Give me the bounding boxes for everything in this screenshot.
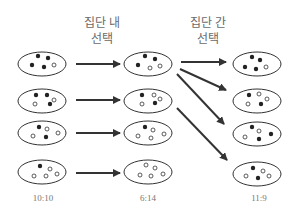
arrow-m2-r4 bbox=[177, 108, 227, 160]
right-column bbox=[233, 52, 281, 186]
within-group-arrows bbox=[76, 64, 120, 173]
heading-line-2: 선택 bbox=[62, 31, 142, 47]
ratio-label-middle: 6:14 bbox=[128, 193, 168, 203]
group-ellipse-r3 bbox=[233, 122, 281, 146]
group-ellipse-l1 bbox=[18, 52, 66, 76]
heading-line-2: 선택 bbox=[168, 31, 248, 47]
within-group-selection-heading: 집단 내 선택 bbox=[62, 15, 142, 47]
selection-diagram bbox=[0, 0, 301, 216]
group-ellipse-m4 bbox=[124, 160, 172, 184]
group-ellipse-m1 bbox=[124, 52, 172, 76]
ratio-label-left: 10:10 bbox=[23, 193, 63, 203]
between-group-arrows bbox=[177, 62, 227, 160]
arrow-m1-r2 bbox=[180, 69, 226, 90]
ratio-label-right: 11:9 bbox=[239, 193, 279, 203]
middle-column bbox=[124, 52, 172, 184]
group-ellipse-r1 bbox=[233, 52, 281, 76]
group-ellipse-l3 bbox=[18, 121, 66, 145]
heading-line-1: 집단 내 bbox=[62, 15, 142, 31]
group-ellipse-m3 bbox=[124, 121, 172, 145]
group-ellipse-l4 bbox=[18, 160, 66, 184]
between-group-selection-heading: 집단 간 선택 bbox=[168, 15, 248, 47]
group-ellipse-r2 bbox=[233, 89, 281, 113]
group-ellipse-r4 bbox=[233, 162, 281, 186]
group-ellipse-m2 bbox=[124, 89, 172, 113]
group-ellipse-l2 bbox=[18, 89, 66, 113]
heading-line-1: 집단 간 bbox=[168, 15, 248, 31]
left-column bbox=[18, 52, 66, 184]
